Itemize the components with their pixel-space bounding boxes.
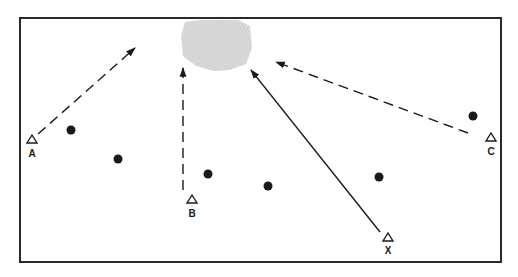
- arrow-from-c: [276, 62, 468, 133]
- triangle-icon: [486, 133, 496, 141]
- position-marker-c: C: [486, 133, 496, 157]
- triangle-icon: [383, 233, 393, 241]
- dot-marker: [264, 182, 273, 191]
- arrow-group: [38, 48, 468, 232]
- dot-group: [67, 112, 478, 191]
- marker-label: B: [188, 208, 195, 219]
- position-marker-x: X: [383, 233, 393, 256]
- marker-label: A: [28, 148, 35, 159]
- triangle-icon: [187, 195, 197, 203]
- diagram-canvas: ABCX: [0, 0, 518, 277]
- triangle-icon: [27, 135, 37, 143]
- marker-group: ABCX: [27, 133, 496, 256]
- dot-marker: [375, 173, 384, 182]
- arrow-from-x: [251, 70, 380, 232]
- marker-label: C: [487, 146, 494, 157]
- dot-marker: [67, 126, 76, 135]
- marker-label: X: [385, 245, 392, 256]
- dot-marker: [469, 112, 478, 121]
- dot-marker: [204, 170, 213, 179]
- dot-marker: [114, 155, 123, 164]
- arrow-from-a: [38, 48, 135, 134]
- position-marker-b: B: [187, 195, 197, 219]
- diagram-frame: [20, 18, 501, 262]
- position-marker-a: A: [27, 135, 37, 159]
- shaded-target-area: [181, 20, 252, 71]
